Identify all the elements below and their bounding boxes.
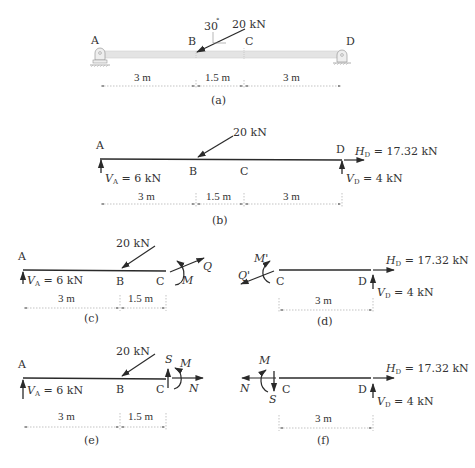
label-c: C [240,165,248,178]
label-c: C [156,275,164,288]
load-label: 20 kN [116,237,150,250]
label-b: B [116,383,124,396]
load-label: 20 kN [233,126,267,139]
hd-label: HD = 17.32 kN [385,362,469,376]
dim-ab: 3 m [58,410,75,422]
dim-bc: 1.5 m [205,71,231,83]
vd-label: VD = 4 kN [377,286,434,300]
label-a: A [90,34,100,47]
label-a: A [17,250,27,263]
dim-cd: 3 m [315,294,332,306]
label-a: A [95,139,105,152]
force-q-arrow [170,258,204,272]
panel-f: C D N S M VD = 4 kN HD = 17.32 kN 3 m (f… [239,354,469,447]
dim-cd: 3 m [283,71,300,83]
label-d: D [358,275,367,288]
caption-f: (f) [317,434,330,447]
moment-m-label: M' [253,252,268,265]
load-arrow [198,136,233,157]
label-b: B [189,165,197,178]
panel-d: C D Q' M' VD = 4 kN HD = 17.32 kN 3 m (d… [238,252,469,328]
load-label: 20 kN [232,18,266,31]
dim-ab: 3 m [58,292,75,304]
normal-n-label: N [188,382,199,395]
vd-label: VD = 4 kN [377,395,434,409]
va-label: VA = 6 kN [105,172,161,186]
vd-label: VD = 4 kN [346,172,403,186]
caption-e: (e) [84,434,99,447]
label-d: D [336,143,345,156]
label-a: A [17,358,27,371]
label-c: C [156,383,164,396]
panel-c: A B C 20 kN VA = 6 kN Q M 3 m 1.5 m (c) [17,237,212,325]
moment-m-label: M [179,357,192,370]
label-b: B [188,35,196,48]
normal-n-label: N [239,382,250,395]
dim-cd: 3 m [315,412,332,424]
panel-e: A B C 20 kN VA = 6 kN S M N 3 m 1.5 m (e… [17,345,203,447]
label-c: C [276,275,284,288]
caption-a: (a) [211,94,226,107]
degree-symbol: ° [216,17,220,25]
moment-m-label: M [181,274,194,287]
label-b: B [116,275,124,288]
shear-s-label: S [269,393,277,406]
beam [100,51,344,58]
beam-diagram: A B C D 20 kN 30 ° 3 m 1.5 m 3 m (a) A B… [0,0,475,468]
va-label: VA = 6 kN [27,274,83,288]
panel-a: A B C D 20 kN 30 ° 3 m 1.5 m 3 m (a) [90,17,355,107]
label-c: C [282,383,290,396]
dim-bc: 1.5 m [128,410,154,422]
label-c: C [245,35,253,48]
caption-d: (d) [317,315,333,328]
label-d: D [358,383,367,396]
moment-m-icon [261,370,268,392]
va-label: VA = 6 kN [27,384,83,398]
caption-b: (b) [212,214,228,227]
force-q-label: Q [203,260,212,273]
beam [23,378,166,379]
dim-bc: 1.5 m [206,190,232,202]
label-d: D [346,35,355,48]
dim-cd: 3 m [283,190,300,202]
force-q-label: Q' [238,269,250,282]
hd-label: HD = 17.32 kN [385,254,469,268]
hd-label: HD = 17.32 kN [354,145,438,159]
shear-s-label: S [165,353,173,366]
beam [100,159,342,160]
dim-ab: 3 m [134,71,151,83]
beam [23,270,166,271]
moment-m-label: M [258,354,271,367]
load-label: 20 kN [116,345,150,358]
dim-bc: 1.5 m [128,292,154,304]
caption-c: (c) [84,312,99,325]
dim-ab: 3 m [138,190,155,202]
panel-b: A B C D 20 kN VA = 6 kN VD = 4 kN HD = 1… [95,126,438,227]
